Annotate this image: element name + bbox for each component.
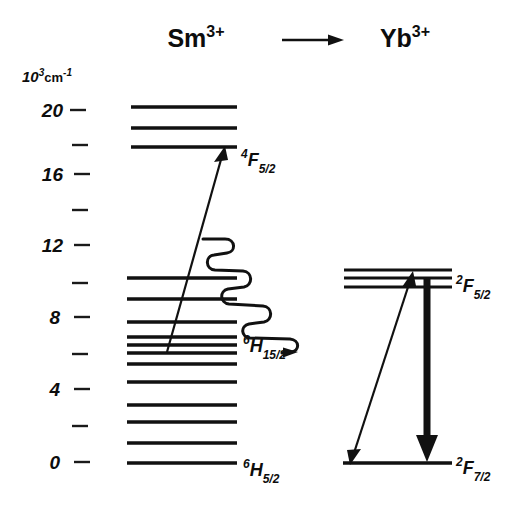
yb-term-label-2F52: 2F5/2 xyxy=(455,273,491,302)
axis-tick-label-12: 12 xyxy=(42,235,64,256)
axis-tick-label-16: 16 xyxy=(42,164,64,185)
energy-level-diagram: Sm3+ Yb3+ 103cm-1 20 16 12 8 4 0 xyxy=(0,0,508,514)
sm-term-label-4F52: 4F5/2 xyxy=(240,147,276,176)
sm-term-label-6H52: 6H5/2 xyxy=(243,457,280,486)
yb-term-label-2F72: 2F7/2 xyxy=(455,455,491,484)
axis-unit-label: 103cm-1 xyxy=(22,67,72,85)
yb-double-head-arrow xyxy=(347,271,416,465)
yb-ion-title: Yb3+ xyxy=(380,23,430,52)
axis-tick-label-0: 0 xyxy=(49,452,60,473)
axis-tick-label-8: 8 xyxy=(49,307,60,328)
transfer-arrow-icon xyxy=(282,35,344,46)
axis-tick-label-4: 4 xyxy=(48,379,60,400)
sm-ion-title: Sm3+ xyxy=(167,23,224,52)
yb-emission-thick-arrow xyxy=(416,277,438,462)
axis-tick-label-20: 20 xyxy=(41,100,64,121)
